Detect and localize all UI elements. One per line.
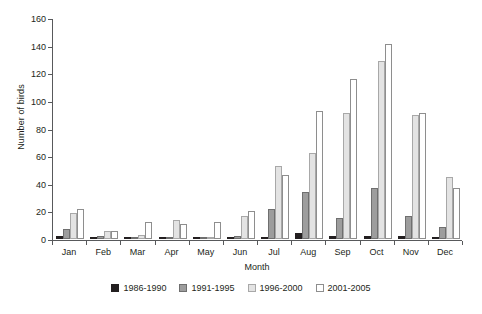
y-tick-label: 40	[36, 180, 46, 190]
bar	[159, 237, 166, 239]
bar	[207, 237, 214, 239]
legend-swatch-icon	[111, 284, 119, 292]
bar-group	[90, 18, 118, 239]
bar-group	[193, 18, 221, 239]
legend-item-1991-1995: 1991-1995	[179, 283, 234, 293]
y-axis-line	[52, 19, 53, 241]
legend-swatch-icon	[248, 284, 256, 292]
bar	[385, 44, 392, 239]
legend-item-1996-2000: 1996-2000	[248, 283, 303, 293]
bar	[131, 237, 138, 239]
bar	[193, 237, 200, 239]
bar-group-bars	[398, 18, 426, 239]
y-tick-label: 120	[31, 69, 46, 79]
x-tick	[120, 241, 121, 245]
y-tick	[48, 212, 52, 213]
bar	[343, 113, 350, 239]
bar-group-bars	[227, 18, 255, 239]
bar-group	[159, 18, 187, 239]
bar-group	[398, 18, 426, 239]
x-tick	[86, 241, 87, 245]
bar	[412, 115, 419, 239]
bar	[77, 209, 84, 239]
y-axis-title: Number of birds	[16, 47, 26, 187]
x-tick	[223, 241, 224, 245]
legend-swatch-icon	[316, 284, 324, 292]
y-tick-label: 140	[31, 42, 46, 52]
bar	[446, 177, 453, 239]
x-axis-title: Month	[52, 262, 462, 272]
bar	[200, 237, 207, 239]
x-tick	[291, 241, 292, 245]
y-tick-label: 0	[41, 235, 46, 245]
y-tick	[48, 47, 52, 48]
bar-group-bars	[432, 18, 460, 239]
bar	[214, 222, 221, 239]
bar	[248, 211, 255, 239]
bar	[268, 209, 275, 239]
bar	[166, 237, 173, 239]
bar-group	[432, 18, 460, 239]
plot-area: 020406080100120140160 JanFebMarAprMayJun…	[52, 19, 462, 240]
x-tick	[155, 241, 156, 245]
bar	[241, 216, 248, 239]
y-tick-label: 80	[36, 125, 46, 135]
bar	[302, 192, 309, 239]
bar-group	[364, 18, 392, 239]
bird-count-bar-chart: Number of birds 020406080100120140160 Ja…	[0, 0, 482, 314]
bar	[419, 113, 426, 239]
bar	[350, 79, 357, 239]
bar	[180, 224, 187, 239]
bar	[145, 222, 152, 239]
legend-item-1986-1990: 1986-1990	[111, 283, 166, 293]
bar	[234, 236, 241, 239]
legend-label: 1986-1990	[123, 283, 166, 293]
bar-group-bars	[295, 18, 323, 239]
bar-group-bars	[193, 18, 221, 239]
bar	[63, 229, 70, 239]
bar	[316, 111, 323, 239]
bar	[329, 236, 336, 239]
bar	[97, 236, 104, 239]
x-tick	[394, 241, 395, 245]
bar-group	[227, 18, 255, 239]
bar	[295, 233, 302, 239]
bar	[56, 236, 63, 239]
x-tick	[462, 241, 463, 245]
y-tick-label: 100	[31, 97, 46, 107]
x-tick	[189, 241, 190, 245]
y-tick-label: 60	[36, 152, 46, 162]
legend-label: 2001-2005	[328, 283, 371, 293]
bar	[398, 236, 405, 239]
x-tick-label-dec: Dec	[425, 247, 465, 257]
bar	[90, 237, 97, 239]
bar	[432, 237, 439, 239]
bar-group	[261, 18, 289, 239]
bar-group-bars	[90, 18, 118, 239]
bar-group-bars	[56, 18, 84, 239]
bar-group	[329, 18, 357, 239]
bar	[309, 153, 316, 239]
bar-group-bars	[329, 18, 357, 239]
bar	[138, 235, 145, 239]
bar	[336, 218, 343, 239]
bar	[453, 188, 460, 239]
y-tick	[48, 130, 52, 131]
x-tick	[325, 241, 326, 245]
bar-group-bars	[261, 18, 289, 239]
bar-group-bars	[364, 18, 392, 239]
bar	[227, 237, 234, 239]
y-tick	[48, 157, 52, 158]
x-tick	[257, 241, 258, 245]
y-tick-label: 20	[36, 207, 46, 217]
y-tick	[48, 185, 52, 186]
bar	[173, 220, 180, 239]
bar	[104, 231, 111, 239]
bar	[378, 61, 385, 239]
bar	[261, 237, 268, 239]
bar	[275, 166, 282, 239]
bar	[439, 227, 446, 239]
bar	[70, 213, 77, 239]
y-tick	[48, 102, 52, 103]
bar	[405, 216, 412, 239]
